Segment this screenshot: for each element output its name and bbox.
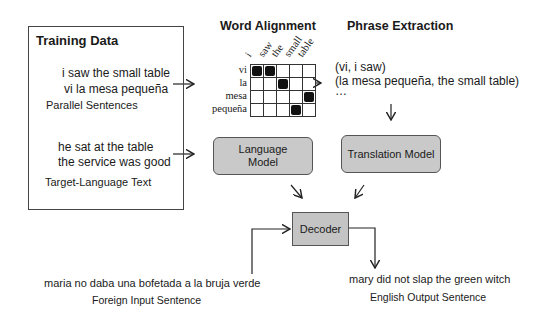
word-alignment-title: Word Alignment [220,19,316,33]
alignment-grid [250,64,316,117]
target-line1: he sat at the table [58,140,153,154]
language-model-box: Language Model [213,137,313,175]
translation-model-label: Translation Model [347,148,434,161]
language-model-line1: Language [239,143,288,156]
training-data-title: Training Data [36,33,118,48]
row-label: mesa [199,90,247,101]
english-output-sentence: mary did not slap the green witch [349,273,510,285]
decoder-label: Decoder [300,223,342,235]
row-label: la [199,77,247,88]
phrase-extraction-title: Phrase Extraction [347,19,453,33]
foreign-input-sentence: maria no daba una bofetada a la bruja ve… [44,277,261,289]
parallel-caption: Parallel Sentences [46,99,138,111]
decoder-box: Decoder [292,212,349,246]
phrase-item: … [335,84,347,98]
language-model-line2: Model [239,156,288,169]
phrase-item: (la mesa pequeña, the small table) [335,74,519,88]
row-label: vi [199,64,247,75]
translation-model-box: Translation Model [341,135,441,173]
phrase-item: (vi, i saw) [335,60,386,74]
english-output-caption: English Output Sentence [370,291,486,303]
target-line2: the service was good [58,155,171,169]
parallel-spanish: vi la mesa pequeña [64,82,168,96]
row-label: pequeña [199,103,247,114]
target-caption: Target-Language Text [45,176,151,188]
parallel-english: i saw the small table [62,66,170,80]
foreign-input-caption: Foreign Input Sentence [92,294,201,306]
